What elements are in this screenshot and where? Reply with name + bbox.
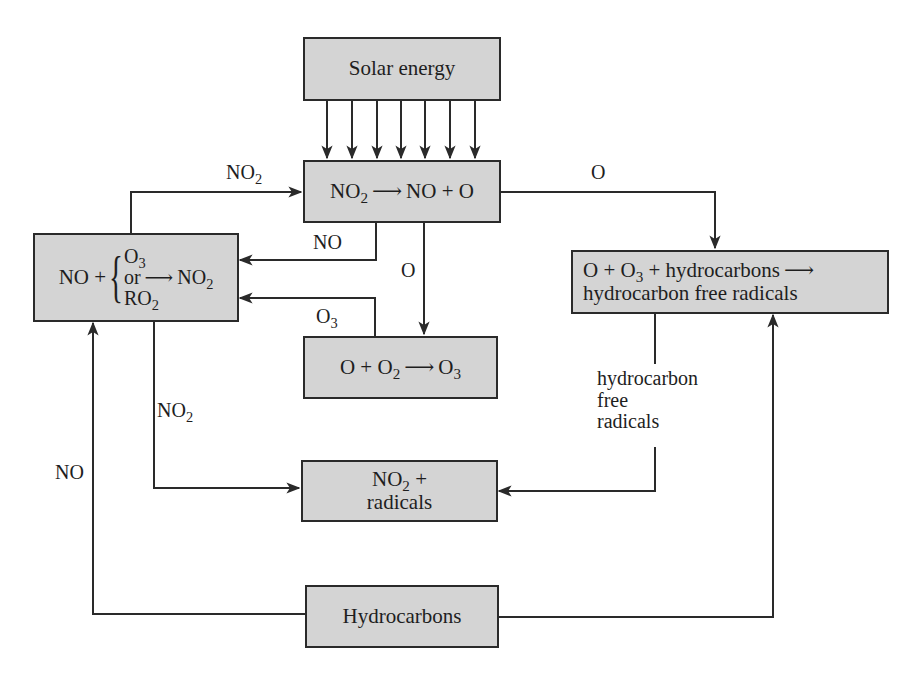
- edge-label-no2-top: NO2: [226, 162, 262, 182]
- brace-icon: {: [109, 254, 123, 300]
- option-o3: O3: [124, 246, 146, 267]
- no2-radicals-line2: radicals: [367, 491, 432, 514]
- no2-radicals-line1: NO2 +: [372, 468, 427, 491]
- hydrocarbon-reaction-box: O + O3 + hydrocarbons⟶ hydrocarbon free …: [571, 250, 889, 314]
- solar-rays: [327, 100, 475, 158]
- reaction-arrow-icon: ⟶: [145, 267, 174, 288]
- edge-label-o-top-right: O: [591, 162, 605, 182]
- edge-label-o3-mid: O3: [316, 306, 338, 326]
- solar-energy-box: Solar energy: [303, 37, 501, 101]
- ozone-reactants: O + O2: [340, 356, 400, 379]
- edge-label-hc-radicals: hydrocarbon free radicals: [597, 368, 698, 433]
- hc-reaction-line2: hydrocarbon free radicals: [583, 282, 798, 305]
- option-ro2: RO2: [124, 288, 159, 309]
- edge-label-no-far-left: NO: [55, 462, 84, 482]
- oxidant-options: O3 or⟶NO2 RO2: [124, 246, 213, 309]
- reaction-arrow-icon: ⟶: [784, 259, 814, 282]
- hydrocarbons-label: Hydrocarbons: [343, 605, 462, 628]
- edge-label-no-mid: NO: [313, 232, 342, 252]
- photolysis-products: NO + O: [406, 180, 474, 203]
- no2-radicals-box: NO2 + radicals: [301, 460, 498, 522]
- ozone-product: O3: [438, 356, 461, 379]
- photolysis-reactant: NO2: [330, 180, 368, 203]
- hydrocarbons-box: Hydrocarbons: [305, 585, 499, 648]
- no-oxidation-product: NO2: [177, 266, 213, 288]
- no-oxidation-box: NO + { O3 or⟶NO2 RO2: [33, 233, 239, 322]
- reaction-arrow-icon: ⟶: [404, 356, 434, 379]
- reaction-arrow-icon: ⟶: [372, 180, 402, 203]
- no-oxidation-prefix: NO +: [59, 266, 106, 289]
- ozone-formation-box: O + O2 ⟶ O3: [303, 336, 498, 399]
- edge-label-no2-left: NO2: [157, 400, 193, 420]
- edge-label-o-mid: O: [401, 260, 415, 280]
- solar-energy-label: Solar energy: [349, 57, 455, 80]
- photolysis-box: NO2 ⟶ NO + O: [303, 160, 501, 223]
- hc-reaction-line1: O + O3 + hydrocarbons⟶: [583, 259, 818, 282]
- option-or: or⟶NO2: [124, 267, 213, 288]
